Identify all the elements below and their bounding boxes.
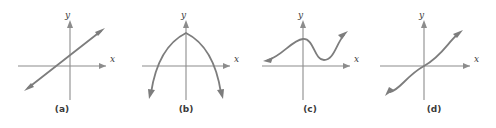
panel-d: y x (d) xyxy=(372,0,496,128)
panel-c: y x (c) xyxy=(248,0,372,128)
panel-b-caption: (b) xyxy=(124,103,248,115)
y-axis-arrow-icon xyxy=(300,20,306,28)
y-axis-arrow-icon xyxy=(183,20,189,28)
x-axis-arrow-icon xyxy=(223,63,230,69)
y-axis-label: y xyxy=(64,10,71,20)
x-axis-arrow-icon xyxy=(99,63,106,69)
curve-c xyxy=(263,31,348,63)
x-axis-label: x xyxy=(474,54,479,64)
y-axis-label: y xyxy=(180,10,187,20)
graph-a: y x xyxy=(0,0,124,106)
graph-c: y x xyxy=(248,0,372,106)
cubic-local-extrema-curve xyxy=(268,35,344,60)
y-axis-arrow-icon xyxy=(421,20,427,28)
curve-a xyxy=(24,28,105,91)
curve-arrow-left-icon xyxy=(148,89,155,99)
x-axis-label: x xyxy=(110,54,115,64)
increasing-line-curve xyxy=(28,31,101,88)
axes-d xyxy=(380,20,470,100)
x-axis-label: x xyxy=(354,54,359,64)
graph-b: y x xyxy=(124,0,248,106)
panel-b: y x (b) xyxy=(124,0,248,128)
curve-arrow-left-icon xyxy=(263,57,273,63)
panel-a: y x (a) xyxy=(0,0,124,128)
x-axis-arrow-icon xyxy=(343,63,350,69)
panel-a-caption: (a) xyxy=(0,103,124,115)
four-graph-shapes-figure: y x (a) y x (b) xyxy=(0,0,496,128)
y-axis-arrow-icon xyxy=(67,20,73,28)
graph-d: y x xyxy=(372,0,496,106)
panel-c-caption: (c) xyxy=(248,103,372,115)
y-axis-label: y xyxy=(418,10,425,20)
curve-arrow-right-icon xyxy=(217,89,224,99)
axes-c xyxy=(262,20,350,100)
curve-arrow-right-icon xyxy=(338,31,348,39)
y-axis-label: y xyxy=(297,10,304,20)
x-axis-label: x xyxy=(234,54,239,64)
panel-d-caption: (d) xyxy=(372,103,496,115)
x-axis-arrow-icon xyxy=(463,63,470,69)
